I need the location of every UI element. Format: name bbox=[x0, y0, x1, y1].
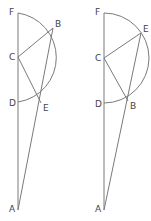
label-f: F bbox=[95, 7, 100, 17]
label-a: A bbox=[95, 204, 102, 214]
line-a-b bbox=[18, 28, 53, 210]
radius-c-e bbox=[104, 33, 141, 58]
left-figure: FBCDEA bbox=[9, 7, 61, 214]
right-figure: FECDBA bbox=[95, 7, 149, 214]
geometry-diagram: FBCDEA FECDBA bbox=[0, 0, 151, 221]
radius-c-e bbox=[18, 57, 41, 103]
radius-c-b bbox=[18, 28, 53, 57]
label-d: D bbox=[9, 98, 16, 108]
label-b: B bbox=[130, 101, 136, 111]
radius-c-b bbox=[104, 58, 128, 101]
semicircle-arc bbox=[18, 13, 56, 102]
label-e: E bbox=[143, 24, 149, 34]
label-c: C bbox=[9, 52, 15, 62]
label-d: D bbox=[95, 99, 102, 109]
label-f: F bbox=[9, 7, 14, 17]
label-a: A bbox=[9, 204, 16, 214]
line-a-e bbox=[104, 33, 141, 210]
label-b: B bbox=[55, 19, 61, 29]
label-e: E bbox=[43, 103, 49, 113]
label-c: C bbox=[95, 53, 101, 63]
